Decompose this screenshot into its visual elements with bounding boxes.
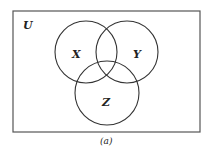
- set-y-label: Y: [133, 48, 142, 61]
- venn-diagram: U X Y Z (a): [0, 0, 214, 153]
- set-x-circle: [55, 21, 117, 83]
- set-z-label: Z: [101, 96, 111, 109]
- figure-caption: (a): [100, 136, 113, 146]
- set-z-circle: [75, 61, 139, 125]
- set-y-circle: [96, 21, 158, 83]
- set-x-label: X: [71, 48, 81, 61]
- universe-label: U: [23, 19, 34, 32]
